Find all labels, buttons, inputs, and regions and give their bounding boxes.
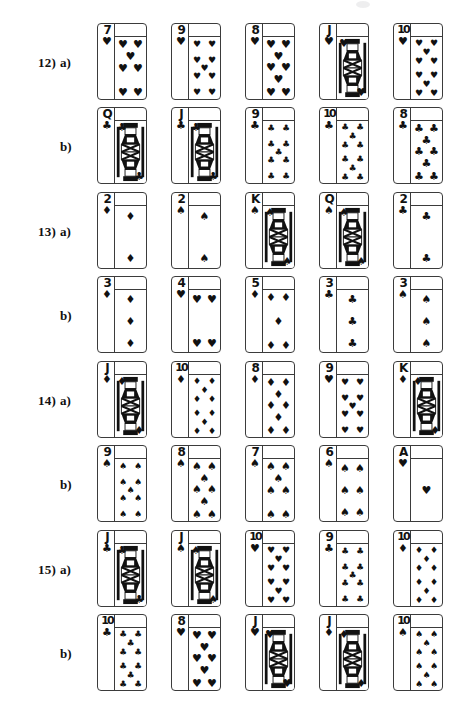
card-corner-index: 2♠	[172, 193, 189, 269]
spades-pip-icon: ♠	[116, 493, 130, 504]
hearts-pip-icon: ♥	[205, 87, 219, 98]
clubs-pip-icon: ♣	[279, 122, 293, 133]
hearts-pip-icon: ♥	[190, 38, 204, 49]
card-corner-index: K♦	[394, 362, 411, 438]
card-corner-index: 9♣	[320, 531, 337, 607]
card-corner-index: 9♥	[320, 362, 337, 438]
spades-pip-icon: ♠	[131, 460, 145, 471]
hearts-pip-icon: ♥	[353, 409, 367, 420]
hearts-pip-icon: ♥	[338, 376, 352, 387]
diamonds-pip-icon: ♦	[124, 338, 138, 349]
hearts-suit-icon: ♥	[173, 627, 189, 638]
spades-pip-icon: ♠	[353, 462, 367, 473]
clubs-suit-icon: ♣	[321, 289, 337, 300]
hearts-pip-icon: ♥	[205, 71, 219, 82]
diamonds-pip-icon: ♦	[264, 424, 278, 435]
hearts-pip-icon: ♥	[205, 629, 219, 640]
hearts-pip-icon: ♥	[205, 293, 219, 304]
playing-card: 3♦♦♦♦	[97, 276, 147, 353]
part-label: b)	[60, 477, 86, 493]
diamonds-suit-icon: ♦	[247, 289, 263, 300]
spades-pip-icon: ♠	[190, 508, 204, 519]
card-pip-field: ♠♠♠♠♠♠♠	[263, 458, 294, 521]
clubs-pip-icon: ♣	[353, 545, 367, 556]
playing-card: J♠ ♠♠	[171, 530, 221, 607]
card-court-illustration: ♦♦	[337, 627, 368, 690]
hearts-suit-icon: ♥	[395, 458, 411, 469]
spades-pip-icon: ♠	[353, 507, 367, 518]
spades-suit-icon: ♠	[173, 458, 189, 469]
hearts-suit-icon: ♥	[339, 38, 349, 49]
card-court-illustration: ♣♣	[189, 120, 220, 183]
card-corner-index: 9♠	[98, 446, 115, 522]
card-corner-index: 8♥	[172, 615, 189, 691]
playing-card: K♦ ♦♦	[393, 361, 443, 438]
hearts-pip-icon: ♥	[427, 87, 441, 98]
clubs-suit-icon: ♣	[395, 205, 411, 216]
spades-pip-icon: ♠	[272, 473, 286, 484]
spades-pip-icon: ♠	[420, 293, 434, 304]
playing-card: 6♠♠♠♠♠♠♠	[319, 445, 369, 522]
card-pip-field: ♥♥♥♥♥♥♥♥♥	[337, 374, 368, 437]
card-court-illustration: ♥♥	[337, 36, 368, 99]
clubs-suit-icon: ♣	[99, 120, 115, 131]
clubs-suit-icon: ♣	[134, 171, 144, 182]
diamonds-suit-icon: ♦	[99, 205, 115, 216]
spades-suit-icon: ♠	[99, 458, 115, 469]
clubs-pip-icon: ♣	[420, 134, 434, 145]
spades-pip-icon: ♠	[279, 461, 293, 472]
card-pip-field: ♠♠♠♠♠♠♠♠♠♠	[411, 627, 442, 690]
playing-card: Q♣ ♣♣	[97, 107, 147, 184]
clubs-suit-icon: ♣	[247, 120, 263, 131]
playing-card: 8♥♥♥♥♥♥♥♥♥	[245, 23, 295, 100]
card-pip-field: ♦♦♦♦♦♦♦♦♦♦	[411, 543, 442, 606]
card-pip-field: ♦♦♦♦♦	[263, 289, 294, 352]
card-pip-field: ♥♥♥♥♥♥♥♥♥	[189, 36, 220, 99]
card-corner-index: K♠	[246, 193, 263, 269]
playing-card: 5♦♦♦♦♦♦	[245, 276, 295, 353]
problem-part: a)2♦♦♦2♠♠♠K♠ ♠♠Q♠	[0, 192, 458, 276]
hearts-pip-icon: ♥	[190, 293, 204, 304]
card-pip-field: ♠♠♠♠♠♠	[337, 458, 368, 521]
playing-card: 2♦♦♦	[97, 192, 147, 269]
hearts-pip-icon: ♥	[205, 38, 219, 49]
card-pip-field: ♦♦♦	[115, 289, 146, 352]
card-court-illustration: ♠♠	[189, 543, 220, 606]
playing-card: 10♥♥♥♥♥♥♥♥♥♥♥	[245, 530, 295, 607]
diamonds-pip-icon: ♦	[272, 316, 286, 327]
hearts-pip-icon: ♥	[131, 86, 145, 97]
playing-card: Q♠ ♠♠	[319, 192, 369, 269]
hearts-suit-icon: ♥	[247, 627, 263, 638]
spades-suit-icon: ♠	[395, 627, 411, 638]
part-label: a)	[60, 393, 86, 409]
spades-pip-icon: ♠	[353, 485, 367, 496]
hearts-pip-icon: ♥	[190, 653, 204, 664]
problem-part: a)J♦ ♦♦10♦♦♦♦♦♦♦♦♦♦♦8♦♦♦♦♦♦♦♦♦9♥♥♥♥♥♥♥♥♥…	[0, 361, 458, 445]
diamonds-suit-icon: ♦	[413, 376, 423, 387]
spades-pip-icon: ♠	[116, 460, 130, 471]
clubs-suit-icon: ♣	[321, 543, 337, 554]
spades-suit-icon: ♠	[173, 205, 189, 216]
card-corner-index: A♥	[394, 446, 411, 522]
spades-pip-icon: ♠	[279, 508, 293, 519]
card-court-illustration: ♠♠	[337, 205, 368, 268]
hearts-suit-icon: ♥	[99, 36, 115, 47]
playing-card: 3♠♠♠♠	[393, 276, 443, 353]
diamonds-pip-icon: ♦	[205, 425, 219, 436]
hearts-pip-icon: ♥	[116, 86, 130, 97]
hearts-pip-icon: ♥	[412, 87, 426, 98]
card-corner-index: 10♥	[246, 531, 263, 607]
diamonds-pip-icon: ♦	[279, 400, 293, 411]
part-label: a)	[60, 562, 86, 578]
spades-suit-icon: ♠	[265, 207, 275, 218]
hearts-suit-icon: ♥	[356, 87, 366, 98]
clubs-suit-icon: ♣	[208, 171, 218, 182]
hearts-pip-icon: ♥	[353, 376, 367, 387]
clubs-pip-icon: ♣	[338, 139, 352, 150]
diamonds-pip-icon: ♦	[272, 388, 286, 399]
hearts-pip-icon: ♥	[279, 38, 293, 49]
hearts-pip-icon: ♥	[279, 86, 293, 97]
spades-suit-icon: ♠	[321, 458, 337, 469]
diamonds-pip-icon: ♦	[205, 393, 219, 404]
hearts-pip-icon: ♥	[190, 338, 204, 349]
